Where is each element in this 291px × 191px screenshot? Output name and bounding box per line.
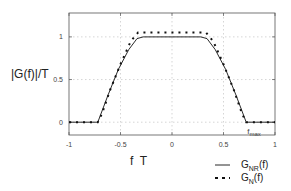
fmax-label: fmax — [247, 127, 261, 137]
x-tick-label: 0.5 — [219, 141, 229, 148]
legend: GNR(f)GN(f) — [215, 159, 268, 185]
legend-label: GN(f) — [241, 172, 263, 185]
legend-label-sub: NR — [249, 165, 259, 172]
x-tick-label: 1 — [273, 141, 277, 148]
x-tick-label: -1 — [66, 141, 72, 148]
y-axis-label: |G(f)|/T — [11, 67, 49, 81]
x-axis-label: f T — [130, 154, 148, 168]
legend-label-tail: (f) — [259, 159, 268, 170]
legend-label: GNR(f) — [241, 159, 268, 172]
legend-label-tail: (f) — [254, 172, 263, 183]
chart: -1-0.500.5100.51 |G(f)|/T f T fmax GNR(f… — [0, 0, 291, 191]
fmax-annotation: fmax — [247, 127, 261, 137]
y-tick-label: 0 — [59, 119, 63, 126]
fmax-subscript: max — [249, 131, 260, 137]
x-tick-label: 0 — [170, 141, 174, 148]
y-tick-label: 0.5 — [53, 76, 63, 83]
x-tick-label: -0.5 — [114, 141, 126, 148]
y-tick-label: 1 — [59, 33, 63, 40]
